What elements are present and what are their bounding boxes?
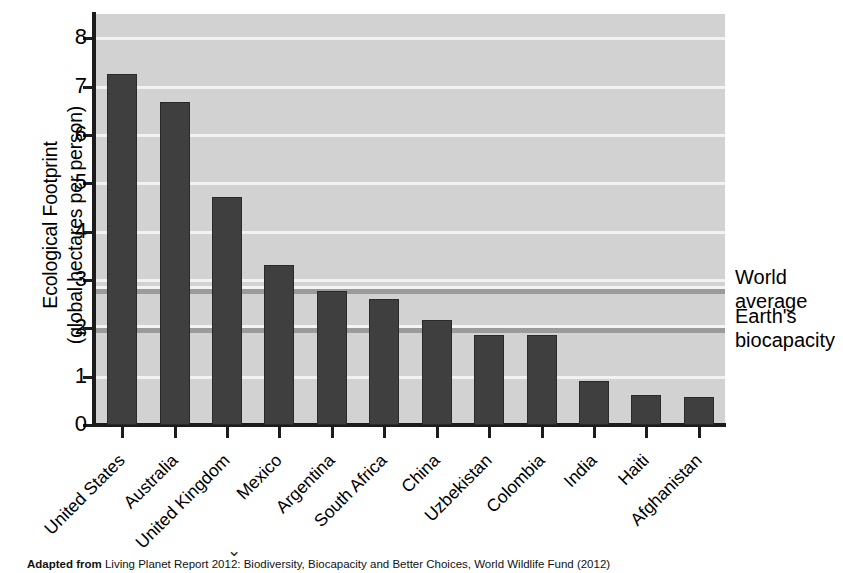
gridline-7 <box>96 86 725 89</box>
bar-colombia <box>527 335 557 425</box>
x-tick-11 <box>698 427 701 438</box>
y-tick-label-2: 2 <box>47 316 87 338</box>
x-tick-9 <box>593 427 596 438</box>
y-tick-label-8: 8 <box>47 26 87 48</box>
x-tick-5 <box>383 427 386 438</box>
bar-haiti <box>631 395 661 425</box>
reference-line-earth-biocapacity <box>96 328 725 333</box>
gridline-8 <box>96 37 725 40</box>
x-tick-7 <box>488 427 491 438</box>
caption-prefix: Adapted from <box>27 558 102 570</box>
x-tick-6 <box>436 427 439 438</box>
bar-argentina <box>317 291 347 425</box>
bar-afghanistan <box>684 397 714 425</box>
gridline-3 <box>96 279 725 282</box>
gridline-6 <box>96 134 725 137</box>
x-tick-10 <box>645 427 648 438</box>
reference-line-world-average <box>96 289 725 294</box>
bar-south-africa <box>369 299 399 425</box>
x-tick-3 <box>278 427 281 438</box>
bar-mexico <box>264 265 294 425</box>
y-axis-line <box>92 12 96 427</box>
annotation-line-1: biocapacity <box>735 328 835 352</box>
gridline-4 <box>96 231 725 234</box>
bar-australia <box>160 102 190 425</box>
y-tick-label-0: 0 <box>47 413 87 435</box>
y-tick-label-7: 7 <box>47 75 87 97</box>
y-tick-label-3: 3 <box>47 268 87 290</box>
bar-uzbekistan <box>474 335 504 425</box>
x-tick-2 <box>226 427 229 438</box>
x-tick-1 <box>174 427 177 438</box>
y-tick-label-6: 6 <box>47 123 87 145</box>
bar-china <box>422 320 452 425</box>
y-tick-label-1: 1 <box>47 365 87 387</box>
plot-area <box>96 14 725 425</box>
bar-united-kingdom <box>212 197 242 425</box>
caption-text: Living Planet Report 2012: Biodiversity,… <box>102 558 610 570</box>
x-tick-4 <box>331 427 334 438</box>
y-tick-label-5: 5 <box>47 171 87 193</box>
x-tick-0 <box>121 427 124 438</box>
bar-india <box>579 381 609 425</box>
gridline-1 <box>96 376 725 379</box>
annotation-line-0: World <box>735 265 807 289</box>
gridline-5 <box>96 182 725 185</box>
figure-caption: Adapted from Living Planet Report 2012: … <box>27 558 610 570</box>
y-tick-label-4: 4 <box>47 220 87 242</box>
annotation-line-0: Earth's <box>735 304 835 328</box>
bar-united-states <box>107 74 137 425</box>
x-tick-8 <box>541 427 544 438</box>
annotation-earth-biocapacity: Earth'sbiocapacity <box>735 304 835 352</box>
ecological-footprint-chart: Ecological Footprint (global hectares pe… <box>0 0 843 573</box>
